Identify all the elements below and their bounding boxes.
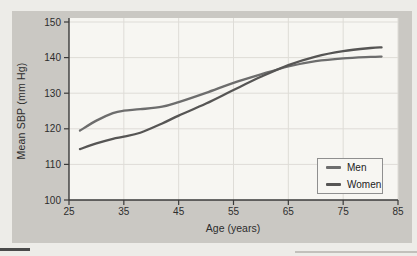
x-tick-label: 65: [283, 206, 295, 217]
x-axis-title: Age (years): [206, 222, 260, 234]
legend: Men Women: [317, 158, 383, 194]
x-tick-label: 25: [63, 206, 75, 217]
legend-item-women: Women: [326, 178, 382, 192]
legend-label-men: Men: [347, 163, 366, 173]
y-tick-label: 120: [44, 123, 61, 134]
sbp-age-line-chart: 25354555657585100110120130140150: [0, 0, 417, 256]
x-tick-label: 55: [228, 206, 240, 217]
y-axis-title: Mean SBP (mm Hg): [15, 63, 27, 160]
legend-label-women: Women: [347, 180, 381, 190]
y-tick-label: 110: [45, 159, 61, 170]
scan-artifact: [0, 248, 30, 251]
women-line-swatch: [326, 183, 341, 186]
x-tick-label: 75: [338, 206, 350, 217]
y-tick-label: 100: [44, 195, 61, 206]
y-tick-label: 130: [44, 88, 61, 99]
x-tick-label: 35: [118, 206, 130, 217]
legend-item-men: Men: [326, 161, 382, 175]
x-tick-label: 45: [173, 206, 185, 217]
x-tick-label: 85: [392, 206, 404, 217]
y-tick-label: 140: [44, 52, 61, 63]
y-tick-label: 150: [44, 17, 61, 28]
scan-artifact: [295, 251, 417, 253]
men-line-swatch: [326, 166, 341, 169]
